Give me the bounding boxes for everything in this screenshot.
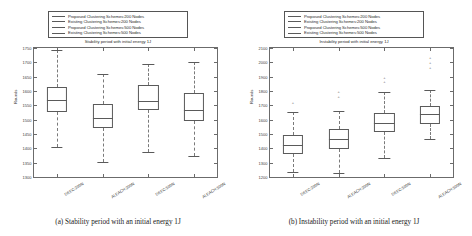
whisker-cap-lower (143, 152, 154, 153)
figure-two-panel: Proposed Clustering Schemes:200 Nodes Ex… (0, 0, 472, 236)
box-plot-glyph (34, 48, 80, 177)
y-tick-label: 1500 (23, 117, 32, 122)
x-tick-label: ALEACH:500N (437, 181, 462, 199)
whisker-lower (293, 154, 294, 172)
whisker-cap-lower (97, 162, 108, 163)
panel-stability: Proposed Clustering Schemes:200 Nodes Ex… (0, 0, 236, 236)
median-line (93, 118, 113, 119)
median-line (420, 114, 440, 115)
whisker-upper (430, 90, 431, 106)
outlier-marker: + (429, 60, 432, 63)
whisker-lower (430, 124, 431, 139)
whisker-lower (339, 149, 340, 173)
whisker-cap-upper (287, 112, 298, 113)
whisker-upper (103, 74, 104, 105)
y-tick-label: 1300 (23, 175, 32, 180)
y-tick-label: 1650 (23, 74, 32, 79)
legend-item-label: Existing Clustering Schemes:500 Nodes (68, 30, 141, 36)
whisker-upper (194, 62, 195, 93)
y-tick-label: 1450 (23, 132, 32, 137)
legend-item: Existing Clustering Schemes:500 Nodes (287, 30, 421, 36)
legend-item: Existing Clustering Schemes:500 Nodes (51, 30, 185, 36)
whisker-cap-lower (424, 139, 435, 140)
y-tick-mark (214, 177, 217, 178)
box-plot-glyph: ++ (316, 48, 362, 177)
y-tick-label: 1750 (23, 46, 32, 51)
x-tick-label: DEEC:200N (299, 181, 320, 197)
panel-caption: (a) Stability period with an initial ene… (0, 218, 236, 226)
plot-title: Instability period with initial energy 1… (236, 39, 472, 44)
whisker-cap-lower (188, 156, 199, 157)
y-tick-label: 1800 (259, 89, 268, 94)
legend-line-icon (288, 33, 301, 34)
whisker-lower (384, 132, 385, 159)
box-iqr (138, 85, 158, 110)
box-iqr (184, 93, 204, 121)
legend-panel-b: Proposed Clustering Schemes:200 Nodes Ex… (284, 11, 424, 38)
box-iqr (283, 135, 303, 155)
legend-item-label: Existing Clustering Schemes:500 Nodes (304, 30, 377, 36)
whisker-upper (148, 64, 149, 85)
legend-line-icon (52, 16, 65, 17)
y-tick-label: 1600 (259, 117, 268, 122)
box-plot-glyph (126, 48, 172, 177)
median-line (329, 139, 349, 140)
whisker-cap-lower (287, 172, 298, 173)
outlier-marker: + (429, 55, 432, 58)
legend-line-icon (288, 16, 301, 17)
plot-area-instability: 1200130014001500160017001800190020002100… (269, 47, 454, 178)
y-tick-label: 1300 (259, 160, 268, 165)
whisker-cap-upper (424, 90, 435, 91)
whisker-upper (339, 111, 340, 129)
y-tick-label: 1700 (23, 60, 32, 65)
y-tick-label: 1200 (259, 175, 268, 180)
median-line (374, 123, 394, 124)
whisker-lower (148, 110, 149, 152)
y-tick-label: 1550 (23, 103, 32, 108)
x-tick-label: DEEC:200N (63, 181, 84, 197)
box-plot-glyph (80, 48, 126, 177)
outlier-marker: + (337, 94, 340, 97)
whisker-cap-lower (333, 173, 344, 174)
legend-line-icon (52, 27, 65, 28)
y-tick-label: 1600 (23, 89, 32, 94)
whisker-cap-upper (51, 50, 62, 51)
whisker-lower (103, 128, 104, 162)
y-tick-label: 1400 (259, 146, 268, 151)
whisker-cap-upper (188, 62, 199, 63)
y-axis-label: Rounds (249, 90, 254, 104)
plot-area-stability: 1300135014001450150015501600165017001750… (33, 47, 218, 178)
whisker-cap-lower (51, 147, 62, 148)
whisker-upper (384, 92, 385, 113)
legend-panel-a: Proposed Clustering Schemes:200 Nodes Ex… (48, 11, 188, 38)
legend-line-icon (288, 21, 301, 22)
y-axis-label: Rounds (13, 90, 18, 104)
y-tick-mark (450, 177, 453, 178)
legend-line-icon (52, 21, 65, 22)
y-tick-label: 1500 (259, 132, 268, 137)
box-plot-glyph: ++ (362, 48, 408, 177)
outlier-marker: + (429, 66, 432, 69)
box-plot-glyph: +++ (407, 48, 453, 177)
plot-title: Stability period with initial energy 1J (0, 39, 236, 44)
median-line (283, 145, 303, 146)
x-tick-label: ALEACH:200N (110, 181, 135, 199)
outlier-marker: + (383, 76, 386, 79)
y-tick-label: 2100 (259, 46, 268, 51)
y-tick-mark (270, 177, 273, 178)
legend-line-icon (288, 27, 301, 28)
y-tick-label: 2000 (259, 60, 268, 65)
median-line (47, 100, 67, 101)
box-iqr (93, 104, 113, 128)
y-tick-label: 1900 (259, 74, 268, 79)
box-plot-glyph (171, 48, 217, 177)
outlier-marker: + (337, 90, 340, 93)
x-tick-label: ALEACH:200N (346, 181, 371, 199)
box-plot-glyph: + (270, 48, 316, 177)
x-tick-label: DEEC:500N (391, 181, 412, 197)
panel-caption: (b) Instability period with an initial e… (236, 218, 472, 226)
whisker-lower (194, 121, 195, 156)
whisker-cap-upper (379, 92, 390, 93)
median-line (184, 110, 204, 111)
x-tick-label: DEEC:500N (155, 181, 176, 197)
